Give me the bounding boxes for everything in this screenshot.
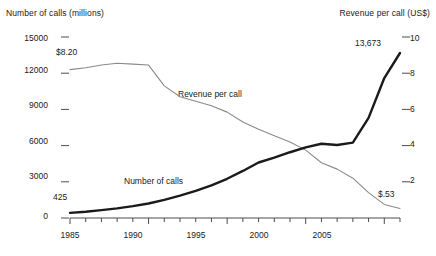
revenue-per-call-line <box>70 63 400 208</box>
y2-axis-tick-marks <box>402 37 410 182</box>
y-axis-tick-marks <box>61 37 69 218</box>
x-axis-tick-marks <box>70 218 400 224</box>
chart-container: Number of calls (millions) Revenue per c… <box>0 0 436 256</box>
number-of-calls-line <box>70 53 400 213</box>
chart-plot <box>0 0 436 256</box>
axis-ticks-group <box>61 37 410 224</box>
